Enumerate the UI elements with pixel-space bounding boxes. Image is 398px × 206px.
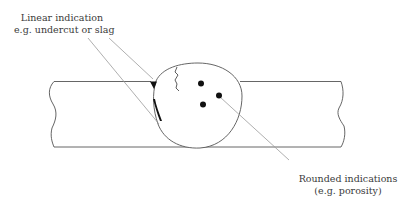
rounded-indications-label: Rounded indications (e.g. porosity) [298, 173, 398, 197]
linear-label-line1: Linear indication [14, 12, 110, 24]
leader-line-slag [88, 38, 159, 124]
linear-label-line2: e.g. undercut or slag [14, 24, 110, 36]
weld-bead [154, 63, 242, 148]
linear-indication-label: Linear indication e.g. undercut or slag [14, 12, 110, 36]
pore-dot [198, 81, 204, 87]
rounded-label-line2: (e.g. porosity) [298, 185, 398, 197]
rounded-label-line1: Rounded indications [298, 173, 398, 185]
leader-line-undercut [109, 38, 153, 79]
pore-dot [200, 102, 206, 108]
pore-dot [216, 93, 222, 99]
